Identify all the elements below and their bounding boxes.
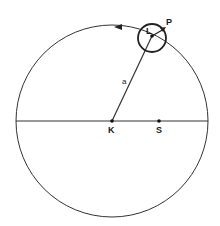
point-s (157, 119, 161, 123)
label-l: L (146, 26, 152, 36)
orbit-diagram: K S L P a (0, 0, 220, 226)
point-k (110, 119, 114, 123)
label-p: P (166, 17, 172, 27)
label-k: K (108, 125, 115, 135)
radius-line (112, 36, 152, 121)
label-a: a (122, 77, 127, 86)
label-s: S (156, 125, 162, 135)
